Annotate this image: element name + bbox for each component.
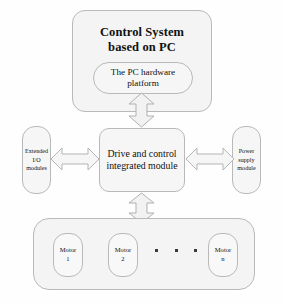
pc-hardware-platform-block: The PC hardware platform [93,62,193,94]
power-supply-module-label: Power supply module [237,147,255,173]
extended-io-modules-block: Extended I/O modules [22,126,51,194]
motor-box: Motor 2 [108,233,138,277]
extended-io-modules-line2: I/O [25,156,48,165]
motor-label-line1: Motor [115,246,131,255]
pc-hardware-platform-line2: platform [111,78,175,89]
motor-box: Motor 1 [53,233,83,277]
extended-io-modules-line1: Extended [25,147,48,156]
connector-top-vertical-arrow-icon [126,92,157,128]
motor-label-line1: Motor [60,246,76,255]
motor-label-line2: 2 [115,255,131,264]
motor-ellipsis-icon [155,249,197,252]
ellipsis-dot [175,249,178,252]
motor-label: Motor n [215,246,231,263]
motor-label-line2: 1 [60,255,76,264]
motor-box: Motor n [208,233,238,277]
drive-control-module-block: Drive and control integrated module [99,128,185,192]
pc-hardware-platform-line1: The PC hardware [111,67,175,78]
power-supply-module-line2: supply [237,156,255,165]
motor-label: Motor 1 [60,246,76,263]
motor-label: Motor 2 [115,246,131,263]
drive-control-module-line2: integrated module [106,160,177,172]
power-supply-module-line3: module [237,164,255,173]
ellipsis-dot [155,249,158,252]
drive-control-module-line1: Drive and control [106,148,177,160]
power-supply-module-line1: Power [237,147,255,156]
control-system-title-line2: based on PC [100,40,184,55]
block-diagram: Control System based on PC The PC hardwa… [0,0,283,305]
connector-right-horizontal-arrow-icon [185,146,235,172]
power-supply-module-block: Power supply module [232,126,261,194]
drive-control-module-label: Drive and control integrated module [106,148,177,171]
control-system-title-line1: Control System [100,25,184,40]
extended-io-modules-label: Extended I/O modules [25,147,48,173]
motor-label-line2: n [215,255,231,264]
motor-label-line1: Motor [215,246,231,255]
extended-io-modules-line3: modules [25,164,48,173]
connector-left-horizontal-arrow-icon [50,146,100,172]
ellipsis-dot [194,249,197,252]
pc-hardware-platform-label: The PC hardware platform [111,67,175,89]
control-system-title: Control System based on PC [100,25,184,55]
